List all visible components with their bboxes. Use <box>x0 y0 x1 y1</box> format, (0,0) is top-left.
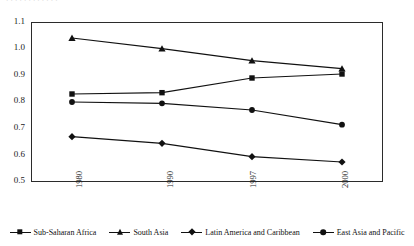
series-sub-saharan-africa <box>69 71 344 96</box>
east-asia-and-pacific-point-marker <box>339 122 345 128</box>
cutoff-text-line: · · · · · · · · · · · · <box>0 0 414 5</box>
legend-label: South Asia <box>133 228 168 237</box>
legend-item-sub-saharan-africa: Sub-Saharan Africa <box>10 228 97 237</box>
y-axis-tick-label: 0.6 <box>1 150 25 159</box>
square-marker-icon <box>10 228 31 237</box>
chart-legend: Sub-Saharan Africa South Asia Latin Amer… <box>0 224 414 240</box>
legend-item-south-asia: South Asia <box>109 228 168 237</box>
sub-saharan-africa-point-marker <box>339 71 344 76</box>
series-line-sub-saharan-africa <box>72 74 342 94</box>
diamond-marker-icon <box>181 228 202 237</box>
legend-label: East Asia and Pacific <box>337 228 405 237</box>
y-axis-tick-label: 0.7 <box>1 123 25 132</box>
sub-saharan-africa-point-marker <box>159 90 164 95</box>
legend-item-latin-america-and-caribbean: Latin America and Caribbean <box>181 228 299 237</box>
legend-item-east-asia-and-pacific: East Asia and Pacific <box>313 228 405 237</box>
y-axis-tick-label: 0.5 <box>1 176 25 185</box>
series-line-latin-america-and-caribbean <box>72 137 342 162</box>
page-cutoff-text: · · · · · · · · · · · · <box>0 0 414 8</box>
legend-label: Sub-Saharan Africa <box>34 228 97 237</box>
x-axis-tick-label: 1997 <box>249 148 258 188</box>
legend-label: Latin America and Caribbean <box>205 228 299 237</box>
x-axis-tick-label: 1990 <box>166 148 175 188</box>
y-axis-tick-label: 1.0 <box>1 43 25 52</box>
x-axis-tick-label: 2000 <box>341 148 350 188</box>
sub-saharan-africa-point-marker <box>69 91 74 96</box>
sub-saharan-africa-point-marker <box>249 75 254 80</box>
east-asia-and-pacific-point-marker <box>249 107 255 113</box>
series-latin-america-and-caribbean <box>68 133 345 166</box>
circle-marker-icon <box>313 228 334 237</box>
y-axis-tick-label: 0.9 <box>1 70 25 79</box>
latin-america-and-caribbean-point-marker <box>158 140 165 147</box>
series-line-south-asia <box>72 38 342 69</box>
east-asia-and-pacific-point-marker <box>69 99 75 105</box>
y-axis-tick-label: 0.8 <box>1 96 25 105</box>
triangle-marker-icon <box>109 228 130 237</box>
series-line-east-asia-and-pacific <box>72 102 342 125</box>
series-south-asia <box>68 35 345 72</box>
series-east-asia-and-pacific <box>69 99 345 127</box>
x-axis-tick-label: 1980 <box>75 148 84 188</box>
latin-america-and-caribbean-point-marker <box>68 133 75 140</box>
chart-figure: · · · · · · · · · · · · 1.1 1.0 0.9 0.8 … <box>0 0 414 246</box>
y-axis-tick-label: 1.1 <box>1 17 25 26</box>
east-asia-and-pacific-point-marker <box>159 100 165 106</box>
